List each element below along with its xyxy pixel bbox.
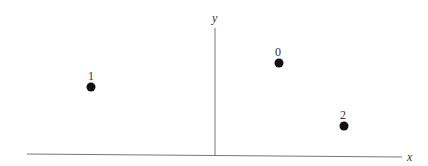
point-0: 0 [275, 45, 284, 68]
point-marker [275, 59, 284, 68]
point-label: 0 [275, 45, 281, 59]
coordinate-plane: x y 012 [0, 0, 428, 166]
point-1: 1 [87, 69, 96, 92]
point-marker [87, 83, 96, 92]
point-2: 2 [340, 108, 349, 131]
y-axis-label: y [211, 11, 218, 25]
points-group: 012 [87, 45, 349, 131]
point-label: 2 [340, 108, 346, 122]
x-axis-label: x [406, 150, 413, 164]
point-label: 1 [88, 69, 94, 83]
point-marker [340, 122, 349, 131]
